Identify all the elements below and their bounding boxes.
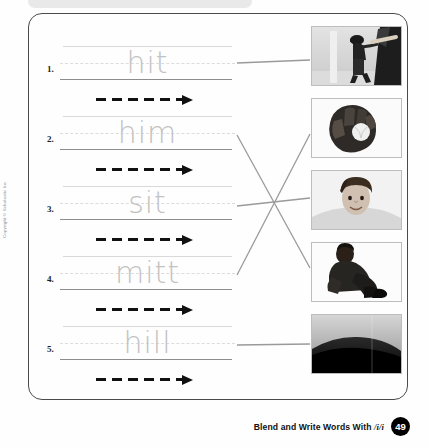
row-5-trace-word[interactable]: hill [60,328,235,358]
footer-phoneme: /i/i [374,422,384,432]
arrow-head-icon [182,235,193,245]
row-2-trace-word[interactable]: him [60,118,235,148]
worksheet-page: Copyright © Scholastic Inc. 1. hit 2. hi… [0,0,428,448]
arrow-head-icon [182,375,193,385]
row-1-trace-word[interactable]: hit [60,48,235,78]
row-number-2: 2. [47,134,54,144]
top-chrome-tab [28,0,252,8]
photo-5-hill[interactable] [311,314,402,374]
photo-1-image [312,27,401,85]
arrow-head-icon [182,305,193,315]
footer-label-text: Blend and Write Words With [254,422,374,432]
row-number-4: 4. [47,274,54,284]
copyright-notice: Copyright © Scholastic Inc. [2,180,7,238]
page-number-badge: 49 [391,417,410,436]
arrow-shaft-icon [96,378,184,381]
arrow-head-icon [182,95,193,105]
footer-label: Blend and Write Words With /i/i [254,422,384,432]
row-3-trace-word[interactable]: sit [60,188,235,218]
row-4-trace-word[interactable]: mitt [60,258,235,288]
photo-1-batter[interactable] [311,26,402,86]
photo-2-mitt[interactable] [311,98,402,158]
photo-3-image [312,171,401,229]
row-number-3: 3. [47,204,54,214]
page-footer: Blend and Write Words With /i/i 49 [254,417,410,436]
arrow-shaft-icon [96,98,184,101]
photo-4-child-sitting[interactable] [311,242,402,302]
arrow-shaft-icon [96,308,184,311]
row-number-5: 5. [47,344,54,354]
photo-5-image [312,315,401,373]
row-number-1: 1. [47,64,54,74]
photo-4-image [312,243,401,301]
photo-2-image [312,99,401,157]
arrow-shaft-icon [96,168,184,171]
arrow-head-icon [182,165,193,175]
photo-3-boy-portrait[interactable] [311,170,402,230]
arrow-shaft-icon [96,238,184,241]
